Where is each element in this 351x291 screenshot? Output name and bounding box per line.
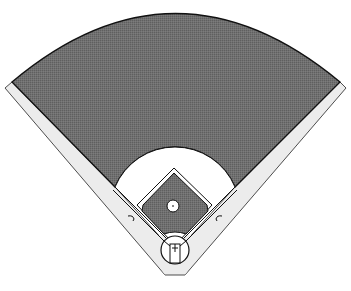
pitching-rubber — [172, 206, 174, 207]
baseball-field-diagram: Baseball field diagram — [0, 0, 351, 291]
